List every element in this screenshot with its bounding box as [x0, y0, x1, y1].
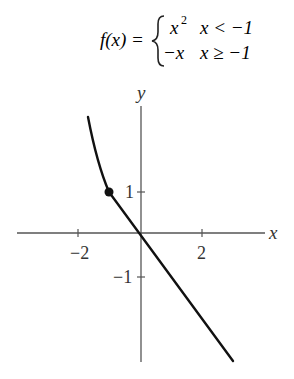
function-graph: −2 2 1 −1 x y — [0, 0, 294, 379]
x-tick-label-2: 2 — [197, 243, 206, 263]
y-axis-label: y — [135, 82, 146, 103]
closed-point — [105, 188, 114, 197]
x-axis-label: x — [268, 222, 278, 243]
y-tick-label-1: 1 — [125, 182, 134, 202]
y-tick-label-neg1: −1 — [113, 267, 132, 287]
parabola-segment — [88, 117, 109, 192]
x-tick-label-neg2: −2 — [70, 243, 89, 263]
